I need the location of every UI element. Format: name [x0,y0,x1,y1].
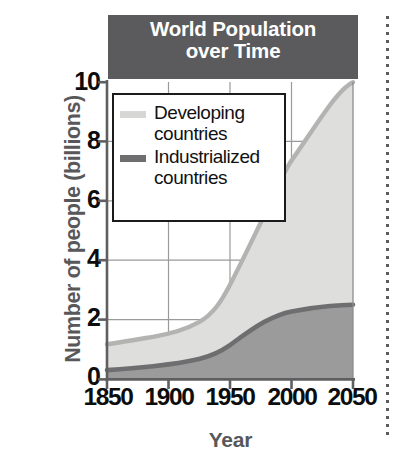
chart-title-banner: World Population over Time [108,15,358,79]
legend-item-industrialized-countries: Industrialized countries [120,146,279,189]
legend-swatch-developing-countries [120,111,146,118]
legend-label-industrialized-line-2: countries [154,167,260,188]
y-axis-ticks [98,82,107,379]
chart-title-line-1: World Population [108,18,358,40]
legend-label-developing-countries: Developing countries [154,102,245,145]
legend-label-developing-line-2: countries [154,123,245,144]
chart-title-line-2: over Time [108,40,358,62]
x-axis-ticks [107,379,353,389]
legend-label-industrialized-line-1: Industrialized [154,146,260,167]
legend-label-developing-line-1: Developing [154,102,245,123]
legend-item-developing-countries: Developing countries [120,102,279,145]
chart-legend: Developing countries Industrialized coun… [112,93,286,222]
chart-figure: Number of people (billions) 10 8 6 4 2 0 [0,0,404,474]
legend-swatch-industrialized-countries [120,155,146,162]
legend-label-industrialized-countries: Industrialized countries [154,146,260,189]
